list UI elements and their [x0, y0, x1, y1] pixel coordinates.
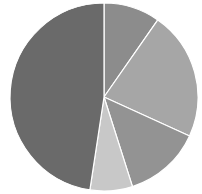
pie-chart — [0, 0, 202, 194]
pie-slice-5 — [10, 3, 104, 190]
